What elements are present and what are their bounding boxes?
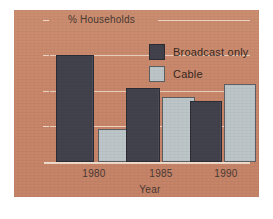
- bar-broadcast-1990: [190, 101, 222, 162]
- ytick-mark-25: [43, 126, 49, 127]
- chart-legend: Broadcast only Cable: [149, 44, 259, 88]
- chart-panel: 100 75 50 25 % Households 1980 1985 1990…: [14, 10, 259, 197]
- bar-cable-1990: [224, 84, 256, 162]
- broadcast-swatch-icon: [149, 44, 165, 60]
- xtick-label-1985: 1985: [131, 168, 191, 179]
- ytick-mark-100: [43, 20, 49, 21]
- legend-label-cable: Cable: [173, 68, 203, 80]
- x-axis-line: [44, 162, 250, 164]
- xtick-label-1990: 1990: [196, 168, 256, 179]
- cable-swatch-icon: [149, 66, 165, 82]
- xtick-label-1980: 1980: [64, 168, 124, 179]
- legend-item-cable: Cable: [149, 66, 259, 85]
- bar-broadcast-1980: [56, 55, 94, 162]
- legend-label-broadcast: Broadcast only: [173, 46, 249, 58]
- ytick-mark-50: [43, 91, 49, 92]
- figure: 100 75 50 25 % Households 1980 1985 1990…: [0, 0, 273, 219]
- legend-item-broadcast: Broadcast only: [149, 44, 259, 63]
- bar-broadcast-1985: [126, 88, 160, 162]
- x-axis-title: Year: [50, 184, 250, 195]
- ytick-mark-75: [43, 55, 49, 56]
- y-axis-caption: % Households: [68, 14, 135, 25]
- plot-area: 100 75 50 25 % Households 1980 1985 1990…: [50, 20, 250, 162]
- gridline-100: [158, 20, 250, 21]
